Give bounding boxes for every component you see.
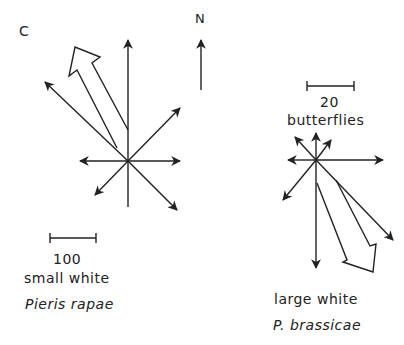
left-scale-bar: [50, 233, 96, 243]
right-scale-value: 20: [320, 95, 339, 109]
panel-label: C: [19, 24, 29, 38]
right-scale-unit: butterflies: [287, 113, 364, 127]
right-species-name: P. brassicae: [273, 318, 361, 332]
left-scale-value: 100: [53, 252, 81, 266]
right-scale-bar: [307, 81, 354, 91]
right-rose-diagram: [283, 133, 393, 272]
right-common-name: large white: [274, 292, 358, 306]
north-label: N: [195, 12, 205, 25]
left-species-name: Pieris rapae: [25, 297, 114, 311]
left-rose-diagram: [45, 40, 180, 210]
left-common-name: small white: [24, 271, 110, 285]
